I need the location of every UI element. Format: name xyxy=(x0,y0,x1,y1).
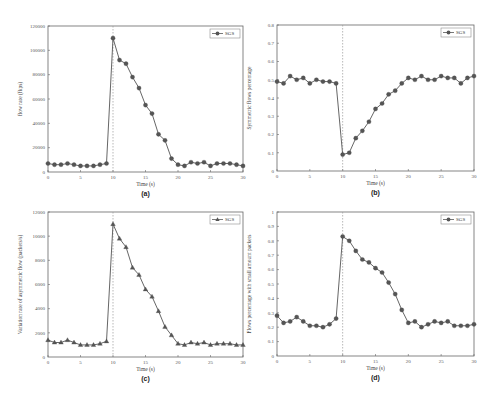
legend-label: SGS xyxy=(225,31,234,36)
data-point-circle xyxy=(347,239,351,243)
data-point-circle xyxy=(275,79,279,83)
data-point-circle xyxy=(341,234,345,238)
data-point-triangle xyxy=(156,309,161,313)
data-point-circle xyxy=(347,151,351,155)
y-tick-label: 0.9 xyxy=(268,224,275,229)
panel-label: (d) xyxy=(371,374,380,382)
data-point-circle xyxy=(393,292,397,296)
data-point-circle xyxy=(202,160,206,164)
data-point-circle xyxy=(215,161,219,165)
y-tick-label: 0 xyxy=(43,355,46,360)
y-axis-label: Symmetric flows percentage xyxy=(246,66,252,129)
data-point-circle xyxy=(78,164,82,168)
data-point-circle xyxy=(288,319,292,323)
x-tick-label: 0 xyxy=(47,360,50,365)
data-point-circle xyxy=(195,161,199,165)
data-point-circle xyxy=(373,107,377,111)
data-point-circle xyxy=(452,324,456,328)
data-point-circle xyxy=(373,266,377,270)
series-line-sgs xyxy=(48,224,243,345)
y-tick-label: 0.1 xyxy=(268,339,275,344)
y-tick-label: 0 xyxy=(43,170,46,175)
x-axis-label: Time (s) xyxy=(366,180,385,187)
x-tick-label: 10 xyxy=(340,174,346,179)
data-point-circle xyxy=(419,74,423,78)
data-point-circle xyxy=(281,81,285,85)
data-point-circle xyxy=(52,163,56,167)
legend: SGS xyxy=(210,215,240,224)
data-point-circle xyxy=(176,163,180,167)
y-tick-label: 0.7 xyxy=(268,41,275,46)
data-point-circle xyxy=(314,78,318,82)
data-point-circle xyxy=(446,319,450,323)
y-tick-label: 6000 xyxy=(35,282,46,287)
data-point-circle xyxy=(426,322,430,326)
data-point-circle xyxy=(124,62,128,66)
x-tick-label: 30 xyxy=(472,174,478,179)
y-axis-label: Variation rate of asymmetric flow (packe… xyxy=(17,235,24,335)
data-point-circle xyxy=(301,319,305,323)
x-tick-label: 30 xyxy=(472,359,478,364)
data-point-triangle xyxy=(104,339,109,343)
data-point-circle xyxy=(156,132,160,136)
data-point-triangle xyxy=(130,265,135,269)
data-point-triangle xyxy=(143,287,148,291)
data-point-circle xyxy=(150,112,154,116)
x-tick-label: 30 xyxy=(241,175,247,180)
data-point-circle xyxy=(400,81,404,85)
y-tick-label: 0.2 xyxy=(268,132,275,137)
data-point-circle xyxy=(327,79,331,83)
x-tick-label: 5 xyxy=(309,359,312,364)
data-point-circle xyxy=(393,89,397,93)
data-point-triangle xyxy=(202,340,207,344)
data-point-circle xyxy=(117,58,121,62)
x-tick-label: 20 xyxy=(176,175,182,180)
data-point-circle xyxy=(426,78,430,82)
y-tick-label: 0 xyxy=(272,169,275,174)
x-axis-label: Time (s) xyxy=(136,366,155,373)
y-tick-label: 20000 xyxy=(33,145,46,150)
y-tick-label: 4000 xyxy=(35,306,46,311)
data-point-circle xyxy=(321,79,325,83)
data-point-circle xyxy=(360,257,364,261)
data-point-circle xyxy=(221,161,225,165)
legend-marker-circle-icon xyxy=(216,32,220,36)
data-point-circle xyxy=(314,324,318,328)
y-tick-label: 0 xyxy=(272,354,275,359)
data-point-triangle xyxy=(117,236,122,240)
data-point-triangle xyxy=(163,324,168,328)
panel-label: (c) xyxy=(141,375,150,383)
x-tick-label: 15 xyxy=(373,359,379,364)
data-point-circle xyxy=(459,81,463,85)
data-point-circle xyxy=(169,157,173,161)
panel-label: (b) xyxy=(371,189,380,197)
plot-frame xyxy=(277,25,474,171)
y-tick-label: 8000 xyxy=(35,258,46,263)
data-point-circle xyxy=(72,163,76,167)
data-point-circle xyxy=(406,321,410,325)
y-tick-label: 60000 xyxy=(33,97,46,102)
y-tick-label: 80000 xyxy=(33,72,46,77)
legend: SGS xyxy=(441,215,471,224)
y-tick-label: 0.8 xyxy=(268,23,275,28)
data-point-circle xyxy=(163,138,167,142)
y-tick-label: 0.4 xyxy=(268,96,275,101)
y-tick-label: 0.3 xyxy=(268,114,275,119)
legend-label: SGS xyxy=(456,30,465,35)
x-tick-label: 25 xyxy=(208,360,214,365)
x-tick-label: 10 xyxy=(111,360,117,365)
data-point-circle xyxy=(360,129,364,133)
data-point-circle xyxy=(433,319,437,323)
x-tick-label: 15 xyxy=(143,175,149,180)
data-point-circle xyxy=(241,164,245,168)
data-point-circle xyxy=(387,280,391,284)
x-tick-label: 25 xyxy=(439,174,445,179)
data-point-circle xyxy=(472,74,476,78)
plot-frame xyxy=(48,212,243,357)
data-point-circle xyxy=(111,36,115,40)
y-tick-label: 0.2 xyxy=(268,325,275,330)
data-point-circle xyxy=(228,161,232,165)
data-point-circle xyxy=(387,92,391,96)
panel-label: (a) xyxy=(141,190,150,198)
data-point-circle xyxy=(321,325,325,329)
